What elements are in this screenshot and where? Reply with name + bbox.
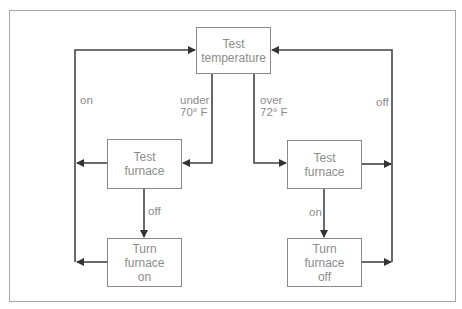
left-loop-label: on — [80, 94, 93, 107]
node-text: Test — [222, 37, 244, 51]
node-text: Test — [313, 151, 335, 165]
node-text: Turn — [312, 242, 336, 256]
node-text: furnace — [124, 164, 164, 178]
node-text: Turn — [132, 242, 156, 256]
right-test-furnace-node: Test furnace — [287, 140, 362, 189]
node-text: Test — [133, 150, 155, 164]
node-text: temperature — [201, 51, 266, 65]
right-loop-label: off — [376, 96, 389, 109]
turn-furnace-on-node: Turn furnace on — [107, 238, 182, 287]
left-down-label: off — [148, 205, 161, 218]
node-text: on — [138, 270, 151, 284]
node-text: furnace — [304, 165, 344, 179]
right-down-label: on — [309, 206, 322, 219]
test-temperature-node: Test temperature — [196, 27, 271, 74]
over-label-line2: 72° F — [260, 106, 288, 119]
under-label-line2: 70° F — [180, 106, 208, 119]
left-test-furnace-node: Test furnace — [107, 139, 182, 189]
node-text: furnace — [304, 256, 344, 270]
node-text: off — [318, 270, 331, 284]
node-text: furnace — [124, 256, 164, 270]
turn-furnace-off-node: Turn furnace off — [287, 238, 362, 287]
